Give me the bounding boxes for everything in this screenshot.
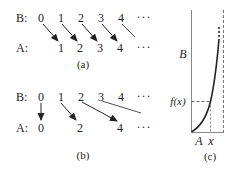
panel-a-row-b-label: B: <box>16 12 27 24</box>
panel-b-b-value: 1 <box>58 91 64 103</box>
panel-b-row-a-label: A: <box>16 122 28 134</box>
panel-c-fx-label: f(x) <box>170 95 185 107</box>
arrow-b2-a3 <box>82 24 97 41</box>
panel-b-arrows <box>41 101 141 121</box>
panel-a-b-value: 0 <box>38 12 44 24</box>
panel-a-a-ellipsis: ··· <box>137 41 152 53</box>
panel-c-plot <box>192 10 225 133</box>
panel-b-b-ellipsis: ··· <box>137 90 152 102</box>
arrow-b0-a1 <box>43 24 58 41</box>
panel-a-b-value: 1 <box>58 12 64 24</box>
panel-a-row-a-label: A: <box>16 42 28 54</box>
arrow-b2-a4 <box>82 102 117 121</box>
panel-a-a-value: 3 <box>97 42 103 54</box>
panel-a-arrows <box>43 24 135 41</box>
panel-b-a-value: 2 <box>77 122 83 134</box>
panel-c-caption: (c) <box>204 151 216 162</box>
panel-a-b-value: 3 <box>98 12 104 24</box>
panel-b-b-value: 2 <box>78 91 84 103</box>
panel-c-y-axis-label: B <box>179 48 186 60</box>
panel-a-caption: (a) <box>77 59 89 70</box>
panel-b-row-b-label: B: <box>16 91 27 103</box>
panel-c-x-marker: x <box>208 135 213 147</box>
line-b4-continues <box>122 24 135 37</box>
panel-c-x-axis-label: A <box>195 135 202 147</box>
panel-a-a-value: 4 <box>117 42 123 54</box>
panel-b-caption: (b) <box>77 150 90 161</box>
panel-b-a-value: 0 <box>38 122 44 134</box>
panel-a-a-value: 1 <box>58 42 64 54</box>
panel-b-a-value: 4 <box>117 122 123 134</box>
panel-b-b-value: 3 <box>98 91 104 103</box>
panel-a-b-value: 4 <box>118 12 124 24</box>
panel-a-b-value: 2 <box>78 12 84 24</box>
arrow-b3-a4 <box>102 24 117 41</box>
arrow-b1-a2 <box>62 24 77 41</box>
panel-b-b-value: 4 <box>118 91 124 103</box>
arrow-b1-a2 <box>61 103 76 120</box>
function-curve <box>192 39 220 132</box>
panel-b-a-ellipsis: ··· <box>137 121 152 133</box>
panel-a-b-ellipsis: ··· <box>137 11 152 23</box>
panel-b-b-value: 0 <box>38 91 44 103</box>
panel-a-a-value: 2 <box>77 42 83 54</box>
